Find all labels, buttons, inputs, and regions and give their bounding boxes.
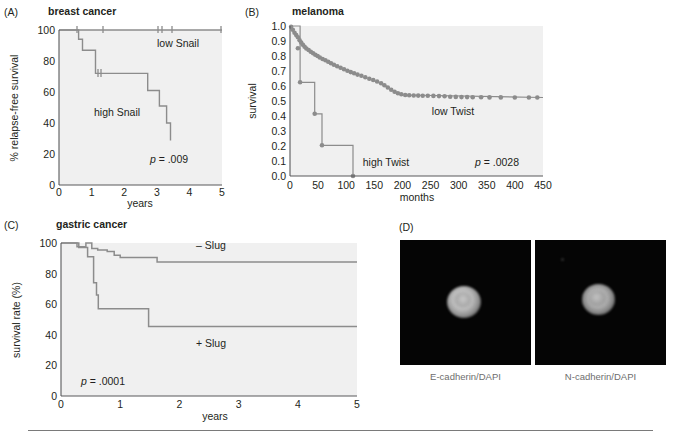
- panel-c-ytick-0: 0: [51, 390, 57, 402]
- panel-c-ytick-100: 100: [39, 237, 57, 249]
- panel-b-xtick-100: 100: [337, 179, 355, 191]
- panel-a-xtick-3: 3: [154, 186, 160, 198]
- panel-c-xtick-0: 0: [58, 398, 64, 410]
- panel-b: (B) melanoma 1.0 0.9 0.8 0.7 0.6 0.5 0.4…: [240, 0, 677, 205]
- panel-b-ytick-1.0: 1.0: [271, 20, 286, 32]
- panel-c-chart: 100 80 60 40 20 0 0 1 2 3 4 5 survival r…: [0, 205, 380, 430]
- nucleus-core-n-cadherin: [588, 290, 607, 307]
- panel-c-ytick-20: 20: [45, 359, 57, 371]
- panel-c-xtick-2: 2: [176, 398, 182, 410]
- panel-a-ylabel: % relapse-free survival: [8, 55, 20, 162]
- panel-c-pvalue: p = .0001: [80, 375, 125, 387]
- panel-b-ytick-0.2: 0.2: [271, 140, 286, 152]
- panel-c-ytick-80: 80: [45, 268, 57, 280]
- panel-b-xtick-200: 200: [394, 179, 412, 191]
- panel-b-xtick-150: 150: [366, 179, 384, 191]
- panel-b-xlabel: months: [400, 191, 434, 203]
- panel-b-ytick-0.7: 0.7: [271, 65, 286, 77]
- panel-a-label-low-snail: low Snail: [157, 37, 199, 49]
- panel-c-xtick-3: 3: [236, 398, 242, 410]
- panel-d-letter: (D): [399, 221, 414, 233]
- panel-b-ylabel: survival: [246, 83, 258, 119]
- panel-b-ytick-0.6: 0.6: [271, 80, 286, 92]
- panel-a-ytick-20: 20: [43, 148, 55, 160]
- panel-b-ytick-0.3: 0.3: [271, 125, 286, 137]
- panel-b-xtick-300: 300: [450, 179, 468, 191]
- panel-c-xtick-5: 5: [354, 398, 360, 410]
- panel-c-ytick-60: 60: [45, 298, 57, 310]
- panel-a-xtick-1: 1: [89, 186, 95, 198]
- panel-b-xtick-400: 400: [506, 179, 524, 191]
- panel-b-ytick-0.4: 0.4: [271, 110, 286, 122]
- panel-c-xlabel: years: [202, 410, 228, 422]
- panel-a: (A) breast cancer 100 80 60 40 20 0 0 1 …: [0, 0, 240, 205]
- panel-a-xtick-0: 0: [56, 186, 62, 198]
- panel-a-xtick-5: 5: [219, 186, 225, 198]
- panel-a-ytick-100: 100: [37, 24, 55, 36]
- panel-c-ytick-40: 40: [45, 329, 57, 341]
- panel-b-label-low-twist: low Twist: [432, 105, 474, 117]
- panel-b-xtick-50: 50: [312, 179, 324, 191]
- panel-c-xtick-1: 1: [117, 398, 123, 410]
- panel-b-label-high-twist: high Twist: [363, 156, 410, 168]
- micrograph-e-cadherin[interactable]: [400, 240, 531, 365]
- panel-c-ylabel: survival rate (%): [10, 282, 22, 358]
- panel-a-pvalue: p = .009: [149, 153, 188, 165]
- panel-b-ytick-0.0: 0.0: [271, 170, 286, 182]
- panel-b-xtick-350: 350: [478, 179, 496, 191]
- panel-c: (C) gastric cancer 100 80 60 40 20 0 0 1…: [0, 205, 380, 430]
- panel-b-xtick-250: 250: [422, 179, 440, 191]
- panel-b-pvalue: p = .0028: [474, 156, 519, 168]
- micrograph-n-cadherin[interactable]: [535, 240, 666, 365]
- panel-a-ytick-60: 60: [43, 86, 55, 98]
- panel-b-chart: 1.0 0.9 0.8 0.7 0.6 0.5 0.4 0.3 0.2 0.1 …: [240, 0, 677, 205]
- panel-d: (D) E-cadherin/DAPI N-cadherin/DAPI: [380, 205, 677, 430]
- panel-b-ytick-0.9: 0.9: [271, 35, 286, 47]
- nucleus-core-e-cadherin: [454, 292, 472, 308]
- panel-a-chart: 100 80 60 40 20 0 0 1 2 3 4 5 % relapse-…: [0, 0, 240, 205]
- micrograph-caption-e-cadherin: E-cadherin/DAPI: [400, 371, 531, 382]
- micrograph-caption-n-cadherin: N-cadherin/DAPI: [535, 371, 666, 382]
- figure-canvas: (A) breast cancer 100 80 60 40 20 0 0 1 …: [0, 0, 677, 439]
- panel-a-xtick-4: 4: [186, 186, 192, 198]
- panel-b-xtick-0: 0: [287, 179, 293, 191]
- panel-b-ytick-0.5: 0.5: [271, 95, 286, 107]
- panel-a-ytick-40: 40: [43, 117, 55, 129]
- panel-b-xtick-450: 450: [534, 179, 552, 191]
- panel-c-label-minus-slug: – Slug: [196, 239, 226, 251]
- panel-b-ytick-0.1: 0.1: [271, 155, 286, 167]
- bottom-divider: [28, 430, 653, 431]
- panel-b-ytick-0.8: 0.8: [271, 50, 286, 62]
- panel-a-ytick-0: 0: [49, 179, 55, 191]
- panel-a-label-high-snail: high Snail: [94, 106, 140, 118]
- panel-c-xtick-4: 4: [295, 398, 301, 410]
- panel-c-label-plus-slug: + Slug: [196, 337, 226, 349]
- panel-a-plot-area: [59, 30, 222, 185]
- panel-c-plot-area: [61, 243, 357, 396]
- panel-b-plot-area: [290, 26, 543, 176]
- speck-artifact-icon: [561, 258, 564, 261]
- panel-a-ytick-80: 80: [43, 55, 55, 67]
